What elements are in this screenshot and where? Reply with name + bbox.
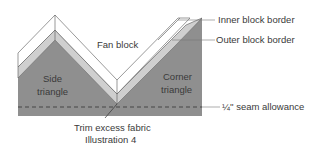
outer-block-border-label: Outer block border: [216, 34, 295, 45]
seam-allowance-label: ¼'' seam allowance: [222, 101, 304, 112]
corner-triangle-label-1: Corner: [163, 71, 192, 82]
trim-caption: Trim excess fabric: [74, 122, 151, 133]
side-triangle-label-2: triangle: [37, 86, 68, 97]
quilt-diagram: Fan block Side triangle Corner triangle …: [0, 0, 320, 150]
inner-block-border-label: Inner block border: [218, 14, 295, 25]
side-triangle-label-1: Side: [43, 73, 62, 84]
illustration-caption: Illustration 4: [85, 134, 136, 145]
fan-block-label: Fan block: [97, 39, 138, 50]
corner-triangle-label-2: triangle: [161, 84, 192, 95]
